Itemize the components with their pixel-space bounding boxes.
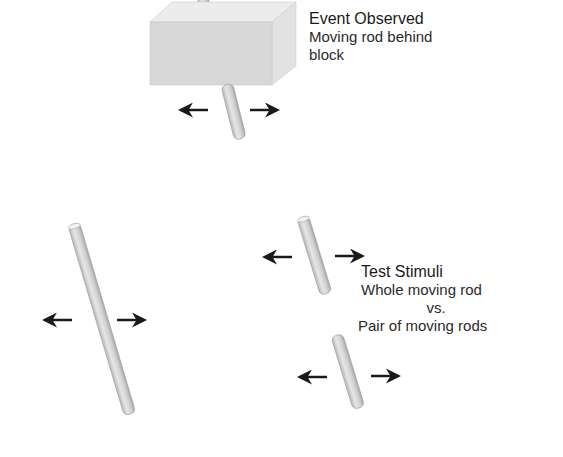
event-observed-line1: Moving rod behind xyxy=(309,28,432,46)
event-observed-title: Event Observed xyxy=(309,10,432,28)
test-stimuli-line1: Whole moving rod xyxy=(361,281,521,299)
test-stimuli-line3: Pair of moving rods xyxy=(358,317,487,335)
occluding-block xyxy=(150,2,296,85)
event-observed-figure xyxy=(150,0,296,140)
test-stimuli-line3-wrap: Pair of moving rods xyxy=(358,317,487,335)
upper-rod xyxy=(297,215,332,295)
event-observed-line2: block xyxy=(309,46,432,64)
lower-rod-figure xyxy=(300,333,398,409)
rod-below-block xyxy=(221,83,246,140)
block-top-face xyxy=(150,2,296,22)
upper-rod-figure xyxy=(265,215,362,295)
lower-rod xyxy=(331,333,365,409)
diagram-canvas xyxy=(0,0,563,457)
event-observed-label: Event Observed Moving rod behind block xyxy=(309,10,432,64)
test-stimuli-title: Test Stimuli xyxy=(361,263,521,281)
test-stimuli-vs: vs. xyxy=(361,299,511,317)
block-front-face xyxy=(150,22,272,85)
whole-rod-figure xyxy=(45,222,144,416)
test-stimuli-label: Test Stimuli Whole moving rod vs. xyxy=(361,263,521,317)
